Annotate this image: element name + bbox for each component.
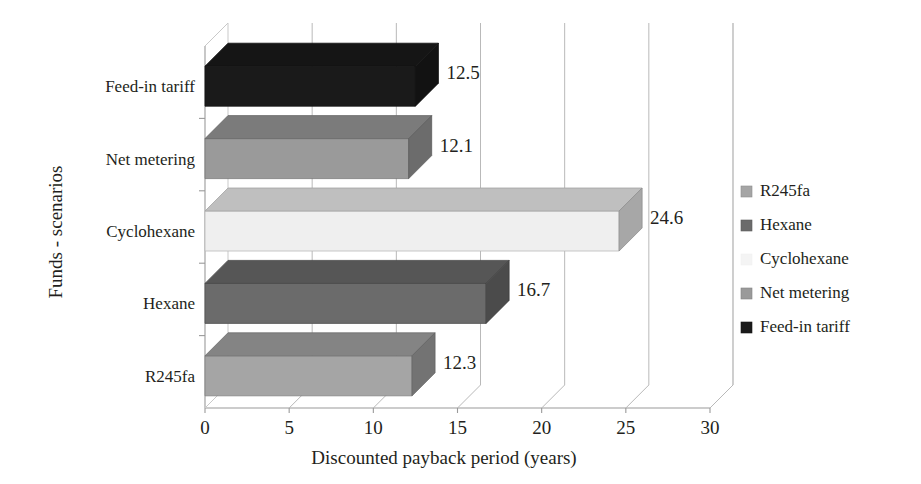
bar-series xyxy=(205,43,642,396)
bar-value-label: 12.3 xyxy=(443,352,476,373)
legend-label: Hexane xyxy=(760,215,812,234)
legend-label: R245fa xyxy=(760,181,811,200)
gridline-floor-connector xyxy=(626,385,649,408)
legend-swatch xyxy=(741,322,752,333)
bar-front-face xyxy=(205,283,486,323)
y-axis-title: Funds - scenarios xyxy=(45,166,66,299)
chart-figure: 051015202530 Feed-in tariffNet meteringC… xyxy=(0,0,921,484)
y-category-label: Cyclohexane xyxy=(106,222,195,241)
x-tickmarks xyxy=(205,408,710,413)
legend-swatch xyxy=(741,220,752,231)
bar-value-label: 24.6 xyxy=(650,207,683,228)
bar-front-face xyxy=(205,211,619,251)
x-axis-title: Discounted payback period (years) xyxy=(311,447,576,469)
chart-legend: R245faHexaneCyclohexaneNet meteringFeed-… xyxy=(741,181,850,336)
y-category-label: R245fa xyxy=(145,367,196,386)
bar xyxy=(205,188,642,251)
bar-top-face xyxy=(205,43,438,66)
legend-label: Feed-in tariff xyxy=(760,317,850,336)
bar-front-face xyxy=(205,66,415,106)
bar-top-face xyxy=(205,188,642,211)
y-tickmarks xyxy=(199,118,205,335)
gridline-floor-connector xyxy=(458,385,481,408)
bar-front-face xyxy=(205,139,409,179)
legend-swatch xyxy=(741,288,752,299)
bar-value-label: 16.7 xyxy=(517,279,550,300)
bar xyxy=(205,43,438,106)
bar xyxy=(205,260,509,323)
category-labels: Feed-in tariffNet meteringCyclohexaneHex… xyxy=(105,77,195,386)
y-axis-depth-connector xyxy=(205,23,228,46)
bar-value-label: 12.5 xyxy=(446,62,479,83)
x-tick-label: 30 xyxy=(701,417,720,438)
legend-swatch xyxy=(741,186,752,197)
x-tick-label: 10 xyxy=(364,417,383,438)
y-category-label: Feed-in tariff xyxy=(105,77,195,96)
legend-swatch xyxy=(741,254,752,265)
x-tick-label: 20 xyxy=(532,417,551,438)
bar xyxy=(205,333,435,396)
bar-top-face xyxy=(205,116,432,139)
x-tick-labels: 051015202530 xyxy=(200,417,719,438)
bar-value-label: 12.1 xyxy=(440,135,473,156)
gridline-floor-connector xyxy=(710,385,733,408)
x-tick-label: 15 xyxy=(448,417,467,438)
legend-label: Net metering xyxy=(760,283,850,302)
x-tick-label: 0 xyxy=(200,417,210,438)
y-category-label: Hexane xyxy=(143,294,195,313)
bar-top-face xyxy=(205,260,509,283)
gridline-floor-connector xyxy=(542,385,565,408)
x-tick-label: 25 xyxy=(616,417,635,438)
y-category-label: Net metering xyxy=(106,150,196,169)
bar xyxy=(205,116,432,179)
x-tick-label: 5 xyxy=(284,417,294,438)
bar-chart: 051015202530 Feed-in tariffNet meteringC… xyxy=(0,0,921,484)
bar-top-face xyxy=(205,333,435,356)
legend-label: Cyclohexane xyxy=(760,249,849,268)
bar-front-face xyxy=(205,356,412,396)
